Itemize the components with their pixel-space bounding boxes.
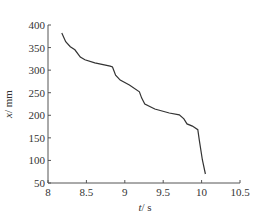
x-tick-label: 10.5 (230, 186, 250, 198)
y-tick-label: 300 (29, 64, 46, 76)
y-tick-label: 400 (29, 19, 46, 31)
data-series-line (62, 33, 206, 174)
y-tick-label: 50 (34, 177, 46, 189)
x-axis-title: t/ s (138, 201, 151, 213)
y-tick-label: 250 (29, 87, 46, 99)
x-tick-label: 10 (196, 186, 208, 198)
y-axis-title: x/ mm (2, 90, 14, 119)
x-tick-label: 9 (122, 186, 128, 198)
x-tick-label: 9.5 (156, 186, 170, 198)
y-tick-label: 150 (29, 132, 46, 144)
x-tick-label: 8 (45, 186, 51, 198)
y-tick-label: 100 (29, 154, 46, 166)
y-tick-label: 200 (29, 109, 46, 121)
y-tick-label: 350 (29, 42, 46, 54)
x-tick-label: 8.5 (80, 186, 94, 198)
line-chart: 50100150200250300350400 88.599.51010.5 t… (0, 0, 262, 218)
axes (48, 25, 240, 183)
